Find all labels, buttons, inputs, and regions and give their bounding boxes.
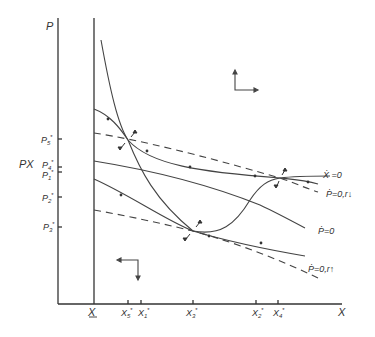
flow-arrow xyxy=(189,166,192,169)
x-dot-zero-curve xyxy=(193,176,330,232)
svg-text:P5*: P5* xyxy=(41,134,53,146)
flow-arrow xyxy=(260,242,263,245)
svg-text:X3*: X3* xyxy=(185,307,198,319)
svg-text:X4*: X4* xyxy=(272,307,285,319)
x-tick-label-x5: X5* xyxy=(120,307,133,319)
direction-indicator-left-down xyxy=(117,258,140,280)
p-dot-zero-r-up-label: Ṗ=0,r↑ xyxy=(308,264,334,274)
x-tick-label-x3: X3* xyxy=(185,307,198,319)
p-axis-label: P xyxy=(46,20,54,32)
direction-indicator-up-right xyxy=(233,70,258,92)
flow-arrow xyxy=(146,150,149,153)
px-label: PX xyxy=(19,158,34,170)
p-dot-zero-r-down-curve xyxy=(94,133,318,192)
x-lower-bound-label: X xyxy=(87,306,96,318)
svg-text:X5*: X5* xyxy=(120,307,133,319)
lower-trajectory xyxy=(94,179,305,256)
y-tick-label-p3: P3* xyxy=(43,221,55,233)
x-tick-label-x1: X1* xyxy=(137,307,150,319)
flow-arrow xyxy=(120,194,123,197)
flow-arrow xyxy=(254,175,257,178)
upper-trajectory xyxy=(94,109,318,184)
svg-text:X2*: X2* xyxy=(251,307,264,319)
x-tick-label-x4: X4* xyxy=(272,307,285,319)
p-dot-zero-r-down-label: Ṗ=0,r↓ xyxy=(326,189,352,199)
svg-text:X1*: X1* xyxy=(137,307,150,319)
svg-text:P3*: P3* xyxy=(43,221,55,233)
flow-arrow xyxy=(208,235,211,238)
x-axis-label: X xyxy=(337,306,346,318)
phase-diagram: P X PX X P5* P4* P1* P2* P3* X5* X1* X3*… xyxy=(0,0,375,337)
svg-text:P2*: P2* xyxy=(42,192,54,204)
x-dot-zero-label: Ẋ =0 xyxy=(322,170,342,180)
steep-curve xyxy=(101,40,193,231)
flow-arrow xyxy=(307,181,310,184)
y-tick-label-p5: P5* xyxy=(41,134,53,146)
p-dot-zero-label: Ṗ=0 xyxy=(318,226,334,236)
p-dot-zero-r-up-curve xyxy=(94,210,318,278)
flow-arrow xyxy=(107,118,110,121)
x-tick-label-x2: X2* xyxy=(251,307,264,319)
y-tick-label-p2: P2* xyxy=(42,192,54,204)
